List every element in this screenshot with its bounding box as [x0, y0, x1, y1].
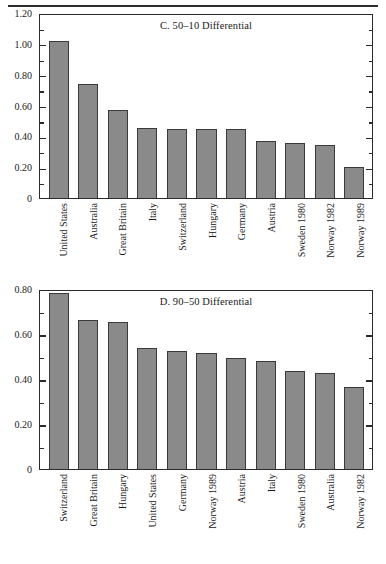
x-tick-label: Australia	[325, 474, 336, 511]
x-label-slot: Hungary	[192, 201, 222, 281]
bar	[78, 320, 98, 469]
bar	[196, 353, 216, 469]
x-label-slot: Switzerland	[43, 472, 73, 558]
bar	[226, 129, 246, 198]
x-label-slot: Germany	[162, 472, 192, 558]
y-tick-minor	[40, 313, 44, 314]
y-tick-minor	[369, 122, 373, 123]
x-tick-label: United States	[58, 203, 69, 257]
bar-slot	[103, 15, 133, 198]
x-tick-label: Sweden 1980	[296, 474, 307, 528]
y-tick-major	[366, 138, 372, 139]
y-tick-major	[366, 169, 372, 170]
y-tick-major	[40, 107, 46, 108]
bar	[78, 84, 98, 198]
bar	[49, 41, 69, 198]
x-tick-label: Germany	[177, 474, 188, 511]
bar-series-d	[40, 291, 372, 469]
x-label-slot: Austria	[251, 201, 281, 281]
x-label-slot: United States	[132, 472, 162, 558]
plot-area-c: C. 50–10 Differential	[39, 14, 373, 199]
y-tick-label: 0.80	[15, 285, 33, 295]
x-tick-label: Italy	[147, 203, 158, 221]
chart-panel-d: 00.200.400.600.80 D. 90–50 Differential …	[0, 290, 386, 562]
y-tick-label: 0.20	[15, 163, 33, 173]
y-tick-label: 1.20	[15, 9, 33, 19]
y-tick-minor	[40, 153, 44, 154]
y-tick-major	[40, 169, 46, 170]
top-horizontal-rule	[8, 5, 378, 7]
y-tick-minor	[369, 61, 373, 62]
y-tick-minor	[369, 313, 373, 314]
y-tick-minor	[40, 184, 44, 185]
bar-slot	[44, 291, 74, 469]
bar	[285, 371, 305, 469]
x-label-slot: Norway 1982	[311, 201, 341, 281]
x-tick-label: Switzerland	[58, 474, 69, 522]
bar-slot	[133, 15, 163, 198]
y-tick-minor	[369, 30, 373, 31]
y-tick-label: 1.00	[15, 40, 33, 50]
x-axis-labels-c: United StatesAustraliaGreat BritainItaly…	[39, 201, 373, 281]
x-label-slot: Great Britain	[102, 201, 132, 281]
y-tick-minor	[40, 61, 44, 62]
bar-slot	[221, 291, 251, 469]
x-label-slot: Norway 1982	[340, 472, 370, 558]
y-tick-minor	[40, 403, 44, 404]
bar	[256, 141, 276, 198]
y-tick-label: 0.40	[15, 375, 33, 385]
bar-slot	[251, 15, 281, 198]
y-tick-minor	[40, 91, 44, 92]
bar-slot	[74, 291, 104, 469]
y-tick-label: 0.80	[15, 71, 33, 81]
chart-panel-c: 00.200.400.600.801.001.20 C. 50–10 Diffe…	[0, 14, 386, 282]
x-label-slot: Germany	[221, 201, 251, 281]
x-label-slot: Austria	[221, 472, 251, 558]
x-axis-labels-d: SwitzerlandGreat BritainHungaryUnited St…	[39, 472, 373, 558]
x-tick-label: Austria	[236, 474, 247, 503]
x-label-slot: Norway 1989	[340, 201, 370, 281]
y-tick-minor	[40, 30, 44, 31]
bar	[108, 110, 128, 198]
x-tick-label: Hungary	[117, 474, 128, 509]
x-label-slot: Norway 1989	[192, 472, 222, 558]
y-tick-minor	[369, 91, 373, 92]
bar-slot	[251, 291, 281, 469]
y-tick-label: 0	[27, 194, 32, 204]
x-tick-label: Great Britain	[117, 203, 128, 255]
bar-slot	[310, 15, 340, 198]
bar-slot	[162, 15, 192, 198]
x-label-slot: Sweden 1980	[281, 472, 311, 558]
x-label-slot: United States	[43, 201, 73, 281]
y-tick-label: 0	[27, 465, 32, 475]
bar-slot	[280, 15, 310, 198]
x-label-slot: Italy	[132, 201, 162, 281]
bar	[196, 129, 216, 198]
bar	[315, 145, 335, 198]
y-tick-major	[40, 335, 46, 336]
bar-slot	[103, 291, 133, 469]
y-tick-minor	[40, 358, 44, 359]
bar	[49, 293, 69, 469]
bar	[344, 387, 364, 469]
y-tick-major	[366, 380, 372, 381]
bar-slot	[162, 291, 192, 469]
bar-series-c	[40, 15, 372, 198]
bar	[137, 348, 157, 469]
y-tick-label: 0.40	[15, 132, 33, 142]
bar-slot	[310, 291, 340, 469]
x-tick-label: Austria	[266, 203, 277, 232]
x-tick-label: United States	[147, 474, 158, 528]
x-tick-label: Great Britain	[88, 474, 99, 526]
y-tick-major	[366, 76, 372, 77]
y-tick-major	[366, 107, 372, 108]
bar-slot	[74, 15, 104, 198]
x-label-slot: Australia	[73, 201, 103, 281]
plot-area-d: D. 90–50 Differential	[39, 290, 373, 470]
y-tick-label: 0.20	[15, 420, 33, 430]
y-tick-major	[40, 45, 46, 46]
y-tick-major	[366, 45, 372, 46]
bar	[137, 128, 157, 198]
x-label-slot: Sweden 1980	[281, 201, 311, 281]
y-tick-minor	[369, 184, 373, 185]
